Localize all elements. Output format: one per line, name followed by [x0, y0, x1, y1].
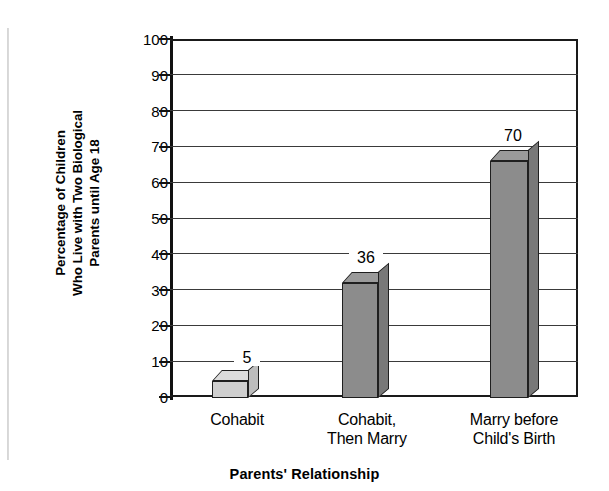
- gridline-80: [170, 110, 578, 111]
- x-category-label-cohabit-then-marry-line-1: Cohabit,: [307, 410, 427, 429]
- x-category-label-marry-before-birth: Marry before Child's Birth: [444, 410, 584, 448]
- bar-cohabit-then-marry: [342, 272, 378, 398]
- y-axis-title-line-3: Parents until Age 18: [86, 110, 103, 296]
- y-axis-title: Percentage of Children Who Live with Two…: [44, 38, 110, 368]
- bar-marry-before-birth: [490, 150, 528, 398]
- bar-cohabit-then-marry-front-face: [342, 283, 378, 398]
- gridline-90: [170, 74, 578, 75]
- y-tick-mark-20: [159, 325, 170, 327]
- page-edge-artifact: [7, 28, 9, 460]
- data-label-marry-before-birth: 70: [496, 128, 530, 144]
- x-category-label-marry-before-birth-line-2: Child's Birth: [444, 429, 584, 448]
- x-category-label-cohabit-then-marry: Cohabit, Then Marry: [307, 410, 427, 448]
- y-tick-mark-0: [159, 396, 170, 398]
- x-category-label-cohabit-then-marry-line-2: Then Marry: [307, 429, 427, 448]
- y-tick-mark-30: [159, 289, 170, 291]
- y-tick-mark-40: [159, 253, 170, 255]
- y-tick-mark-10: [159, 361, 170, 363]
- y-tick-mark-60: [159, 182, 170, 184]
- data-label-cohabit-then-marry: 36: [349, 250, 383, 266]
- bar-marry-before-birth-front-face: [490, 161, 528, 398]
- bar-cohabit: [212, 370, 248, 398]
- bar-marry-before-birth-side-face: [528, 141, 539, 398]
- x-category-label-cohabit-line-1: Cohabit: [182, 410, 292, 429]
- y-axis-title-line-2: Who Live with Two Biological: [69, 110, 86, 296]
- bar-chart: Percentage of Children Who Live with Two…: [0, 0, 609, 491]
- y-tick-mark-90: [159, 74, 170, 76]
- bar-cohabit-then-marry-side-face: [378, 263, 389, 398]
- x-category-label-cohabit: Cohabit: [182, 410, 292, 429]
- y-tick-mark-50: [159, 218, 170, 220]
- y-tick-mark-70: [159, 146, 170, 148]
- y-tick-mark-100: [159, 38, 170, 40]
- y-tick-mark-80: [159, 110, 170, 112]
- data-label-cohabit: 5: [234, 350, 260, 366]
- x-axis-title: Parents' Relationship: [0, 466, 609, 482]
- gridline-70: [170, 146, 578, 147]
- x-category-label-marry-before-birth-line-1: Marry before: [444, 410, 584, 429]
- y-axis-title-line-1: Percentage of Children: [52, 110, 69, 296]
- plot-border-top: [170, 39, 578, 41]
- bar-cohabit-front-face: [212, 381, 248, 398]
